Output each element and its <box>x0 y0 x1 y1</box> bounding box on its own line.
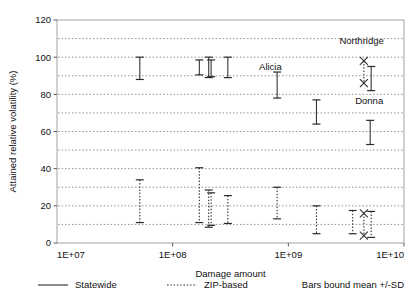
ytick-label-120: 120 <box>35 14 51 25</box>
annotation-donna: Donna <box>355 95 384 106</box>
ytick-label-20: 20 <box>40 200 51 211</box>
ytick-label-60: 60 <box>40 126 51 137</box>
xtick-label-3: 1E+10 <box>376 249 404 260</box>
chart-canvas: 0204060801001201E+071E+081E+091E+10Damag… <box>0 0 420 307</box>
x-axis-title: Damage amount <box>195 268 266 279</box>
annotation-northridge: Northridge <box>339 35 383 46</box>
y-axis-title: Attained relative volatility (%) <box>7 71 18 193</box>
ytick-label-80: 80 <box>40 89 51 100</box>
legend-label-zip-based: ZIP-based <box>204 279 248 290</box>
legend-note: Bars bound mean +/-SD <box>302 279 404 290</box>
ytick-label-0: 0 <box>46 237 51 248</box>
ytick-label-100: 100 <box>35 52 51 63</box>
ytick-label-40: 40 <box>40 163 51 174</box>
annotation-alicia: Alicia <box>259 61 282 72</box>
legend-label-statewide: Statewide <box>75 279 117 290</box>
xtick-label-1: 1E+08 <box>159 249 187 260</box>
chart-figure: 0204060801001201E+071E+081E+091E+10Damag… <box>0 0 420 307</box>
xtick-label-2: 1E+09 <box>274 249 302 260</box>
xtick-label-0: 1E+07 <box>57 249 85 260</box>
